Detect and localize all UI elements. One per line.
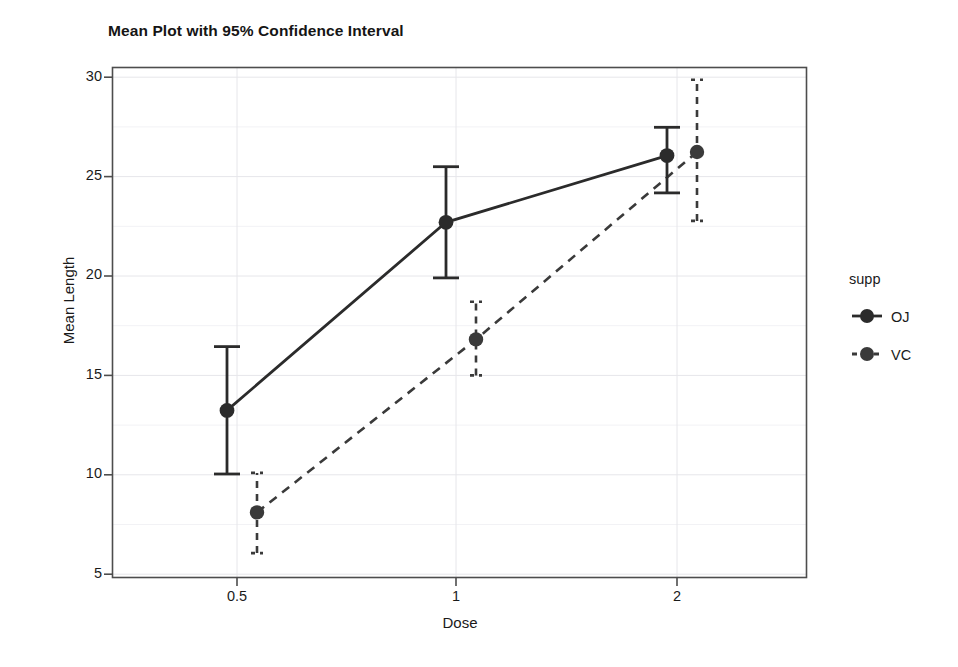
plot-panel-background	[112, 67, 807, 578]
mean-plot-figure: Mean Plot with 95% Confidence Interval M…	[0, 0, 958, 667]
series-vc-point-1	[469, 332, 483, 346]
series-vc-point-0	[250, 505, 264, 519]
legend-key-oj	[852, 309, 882, 323]
series-oj-point-2	[660, 148, 675, 163]
series-vc-point-2	[690, 145, 704, 159]
series-oj-point-0	[220, 403, 235, 418]
y-axis-ticks	[104, 77, 112, 574]
plot-canvas	[0, 0, 958, 667]
x-axis-ticks	[237, 578, 677, 586]
legend-key-vc	[852, 347, 882, 361]
series-oj-point-1	[439, 215, 454, 230]
